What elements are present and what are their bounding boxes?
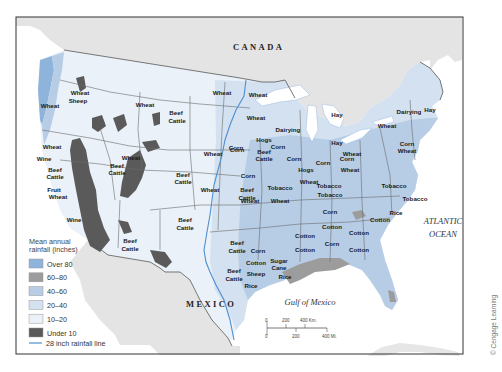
crop-label-cotton: Cotton: [370, 216, 390, 223]
crop-label-cotton: Cotton: [246, 259, 266, 266]
crop-label-cattle: Cattle: [255, 155, 273, 162]
crop-label-corn: Corn: [241, 172, 256, 179]
crop-label-tobacco: Tobacco: [268, 184, 293, 191]
label-canada: CANADA: [233, 42, 284, 52]
rainfall-agriculture-map: CANADA MEXICO ATLANTIC OCEAN Gulf of Mex…: [0, 0, 502, 372]
legend-label: 20–40: [47, 301, 67, 310]
crop-label-dairying: Dairying: [397, 108, 422, 115]
crop-label-tobacco: Tobacco: [382, 182, 407, 189]
crop-label-wheat: Wheat: [249, 91, 268, 98]
label-mexico: MEXICO: [186, 299, 236, 309]
legend-swatch: [29, 259, 43, 268]
crop-label-cattle: Cattle: [168, 117, 186, 124]
crop-label-beef: Beef: [48, 166, 62, 173]
crop-label-cane: Cane: [271, 264, 287, 271]
legend-label: 60–80: [47, 273, 67, 282]
crop-label-rice: Rice: [389, 209, 403, 216]
crop-label-cattle: Cattle: [46, 173, 64, 180]
crop-label-wheat: Wheat: [49, 193, 68, 200]
crop-label-tobacco: Tobacco: [318, 191, 343, 198]
crop-label-cattle: Cattle: [174, 178, 192, 185]
crop-label-beef: Beef: [110, 162, 124, 169]
scale-mi-200: 200: [292, 334, 300, 339]
scale-km-400: 400 Km.: [300, 318, 317, 323]
legend-label: Over 80: [47, 260, 73, 269]
crop-label-corn: Corn: [287, 155, 302, 162]
crop-label-cotton: Cotton: [349, 246, 369, 253]
legend-rainfall-line-label: 28 inch rainfall line: [46, 339, 106, 348]
crop-label-corn: Corn: [325, 240, 340, 247]
legend-swatch: [29, 328, 43, 337]
crop-label-corn: Corn: [251, 247, 266, 254]
crop-label-wheat: Wheat: [398, 147, 417, 154]
crop-label-cotton: Cotton: [349, 229, 369, 236]
crop-label-wheat: Wheat: [241, 197, 260, 204]
crop-label-corn: Corn: [323, 208, 338, 215]
crop-label-cotton: Cotton: [322, 223, 342, 230]
legend-label: 10–20: [47, 315, 67, 324]
crop-label-wheat: Wheat: [43, 143, 62, 150]
crop-label-wheat: Wheat: [341, 166, 360, 173]
scale-km-200: 200: [282, 318, 290, 323]
legend-swatch: [29, 300, 43, 309]
crop-label-sheep: Sheep: [69, 97, 88, 104]
crop-label-corn: Corn: [340, 155, 355, 162]
crop-label-beef: Beef: [123, 237, 137, 244]
crop-label-rice: Rice: [244, 282, 258, 289]
crop-label-hay: Hay: [331, 139, 343, 146]
crop-label-beef: Beef: [227, 267, 241, 274]
crop-label-corn: Corn: [271, 143, 286, 150]
crop-label-cotton: Cotton: [295, 232, 315, 239]
crop-label-beef: Beef: [176, 171, 190, 178]
crop-label-cattle: Cattle: [228, 247, 246, 254]
crop-label-rice: Rice: [278, 273, 292, 280]
crop-label-wheat: Wheat: [204, 150, 223, 157]
crop-label-wheat: Wheat: [378, 122, 397, 129]
crop-label-cattle: Cattle: [121, 245, 139, 252]
crop-label-hay: Hay: [424, 106, 436, 113]
crop-label-beef: Beef: [230, 239, 244, 246]
crop-label-wine: Wine: [37, 155, 52, 162]
crop-label-cattle: Cattle: [225, 275, 243, 282]
crop-label-tobacco: Tobacco: [403, 195, 428, 202]
crop-label-hay: Hay: [331, 111, 343, 118]
copyright-credit: © Cengage Learning: [490, 295, 498, 355]
crop-label-dairying: Dairying: [276, 126, 301, 133]
crop-label-wine: Wine: [67, 216, 82, 223]
crop-label-cattle: Cattle: [108, 169, 126, 176]
crop-label-beef: Beef: [240, 186, 254, 193]
crop-label-tobacco: Tobacco: [317, 182, 342, 189]
crop-label-hogs: Hogs: [298, 166, 314, 173]
crop-label-wheat: Wheat: [136, 101, 155, 108]
label-atlantic: ATLANTIC: [423, 216, 463, 226]
label-ocean: OCEAN: [429, 229, 458, 239]
legend-swatch: [29, 273, 43, 282]
legend-label: 40–60: [47, 287, 67, 296]
crop-label-corn: Corn: [316, 159, 331, 166]
legend-label: Under 10: [47, 329, 77, 338]
crop-label-cotton: Cotton: [295, 246, 315, 253]
crop-label-wheat: Wheat: [71, 89, 90, 96]
crop-label-fruit: Fruit: [47, 186, 61, 193]
crop-label-wheat: Wheat: [41, 102, 60, 109]
crop-label-wheat: Wheat: [247, 114, 266, 121]
crop-label-beef: Beef: [169, 109, 183, 116]
crop-label-beef: Beef: [178, 216, 192, 223]
crop-label-wheat: Wheat: [122, 154, 141, 161]
legend-title-line2: rainfall (inches): [29, 245, 78, 254]
crop-label-cattle: Cattle: [176, 224, 194, 231]
legend-swatch: [29, 314, 43, 323]
crop-label-wheat: Wheat: [300, 178, 319, 185]
crop-label-corn: Corn: [400, 140, 415, 147]
crop-label-sugar: Sugar: [270, 257, 288, 264]
crop-label-wheat: Wheat: [271, 197, 290, 204]
crop-label-wheat: Wheat: [201, 186, 220, 193]
crop-label-hogs: Hogs: [256, 136, 272, 143]
scale-mi-400: 400 Mi.: [322, 334, 337, 339]
crop-label-beef: Beef: [257, 148, 271, 155]
crop-label-sheep: Sheep: [247, 270, 266, 277]
crop-label-corn: Corn: [230, 146, 245, 153]
crop-label-wheat: Wheat: [213, 89, 232, 96]
label-gulf-of-mexico: Gulf of Mexico: [285, 297, 336, 307]
legend-swatch: [29, 287, 43, 296]
